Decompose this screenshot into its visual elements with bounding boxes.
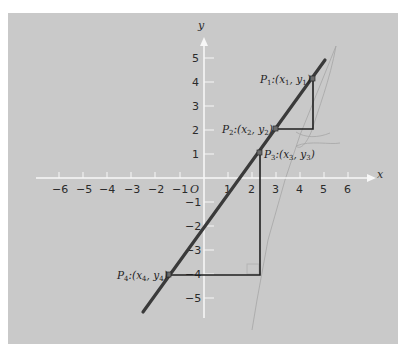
origin-label: O bbox=[190, 183, 199, 196]
slope-diagram-figure: y x O −6 −5 −4 −3 −2 −1 1 2 3 4 5 6 5 4 … bbox=[0, 0, 409, 355]
x-tick-label: 6 bbox=[344, 183, 351, 196]
y-tick-label: 5 bbox=[192, 52, 199, 65]
x-tick-label: −2 bbox=[148, 183, 164, 196]
point-p3 bbox=[257, 150, 262, 155]
x-tick-label: 5 bbox=[320, 183, 327, 196]
y-tick-label: 4 bbox=[192, 76, 199, 89]
x-tick-label: 2 bbox=[248, 183, 255, 196]
x-axis-label: x bbox=[377, 168, 384, 181]
x-tick-label: −6 bbox=[52, 183, 68, 196]
y-tick-label: 2 bbox=[192, 124, 199, 137]
x-tick-label: 3 bbox=[272, 183, 279, 196]
y-tick-label: 3 bbox=[192, 100, 199, 113]
diagram-canvas: y x O −6 −5 −4 −3 −2 −1 1 2 3 4 5 6 5 4 … bbox=[0, 0, 409, 355]
y-tick-label: −5 bbox=[185, 292, 201, 305]
y-tick-label: 1 bbox=[192, 148, 199, 161]
x-tick-label: −3 bbox=[124, 183, 140, 196]
y-tick-label: −1 bbox=[185, 196, 201, 209]
x-tick-label: −5 bbox=[76, 183, 92, 196]
x-tick-label: −1 bbox=[172, 183, 188, 196]
x-tick-label: 4 bbox=[296, 183, 303, 196]
y-axis-label: y bbox=[197, 19, 205, 32]
point-p2 bbox=[273, 126, 278, 131]
y-tick-label: −2 bbox=[185, 220, 201, 233]
x-tick-label: −4 bbox=[99, 183, 115, 196]
